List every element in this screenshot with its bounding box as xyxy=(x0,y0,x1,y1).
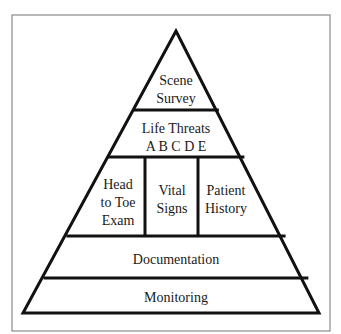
head-to-toe-line-2: to Toe xyxy=(101,195,136,210)
head-to-toe-line-1: Head xyxy=(103,177,133,192)
tier-life-threats: Life Threats A B C D E xyxy=(142,121,211,154)
vital-signs-line-1: Vital xyxy=(158,183,185,198)
life-threats-line-2: A B C D E xyxy=(146,139,207,154)
scene-survey-line-1: Scene xyxy=(159,73,192,88)
scene-survey-line-2: Survey xyxy=(156,91,196,106)
outer-frame xyxy=(12,15,330,331)
documentation-label: Documentation xyxy=(133,252,219,267)
vital-signs-line-2: Signs xyxy=(156,201,187,216)
patient-history-line-2: History xyxy=(205,201,247,216)
head-to-toe-line-3: Exam xyxy=(102,213,135,228)
tier-monitoring: Monitoring xyxy=(144,290,208,305)
monitoring-label: Monitoring xyxy=(144,290,208,305)
life-threats-line-1: Life Threats xyxy=(142,121,211,136)
pyramid-diagram: Scene Survey Life Threats A B C D E Head… xyxy=(0,0,341,334)
tier-scene-survey: Scene Survey xyxy=(156,73,196,106)
patient-history-line-1: Patient xyxy=(207,183,246,198)
tier-secondary-assessment: Head to Toe Exam Vital Signs Patient His… xyxy=(101,177,247,228)
tier-documentation: Documentation xyxy=(133,252,219,267)
